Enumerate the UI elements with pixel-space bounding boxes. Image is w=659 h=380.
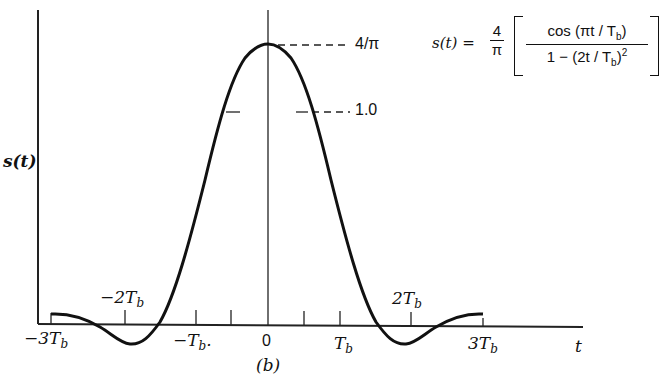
tick-label-2Tb: 2Tb xyxy=(392,288,422,311)
formula-fraction: cos (πt / Tb) 1 − (2t / Tb)2 xyxy=(526,22,648,68)
peak-label: 4/π xyxy=(355,35,379,53)
tick-label-negTb: −Tb. xyxy=(173,330,212,353)
tick-label-zero: 0 xyxy=(262,332,271,350)
formula-lhs: s(t) = xyxy=(432,34,475,52)
x-axis-label: t xyxy=(575,336,582,356)
x-axis xyxy=(38,324,583,327)
figure-caption: (b) xyxy=(256,355,280,375)
tick-label-neg3Tb: −3Tb xyxy=(24,328,68,351)
y-axis-label: s(t) xyxy=(3,151,37,171)
bracket-left xyxy=(514,16,523,76)
tick-label-Tb: Tb xyxy=(334,333,353,356)
one-label: 1.0 xyxy=(355,101,377,119)
tick-label-3Tb: 3Tb xyxy=(468,333,498,356)
bracket-right xyxy=(650,16,659,76)
tick-label-neg2Tb: −2Tb xyxy=(100,287,144,310)
formula-coef: 4 π xyxy=(490,22,504,58)
